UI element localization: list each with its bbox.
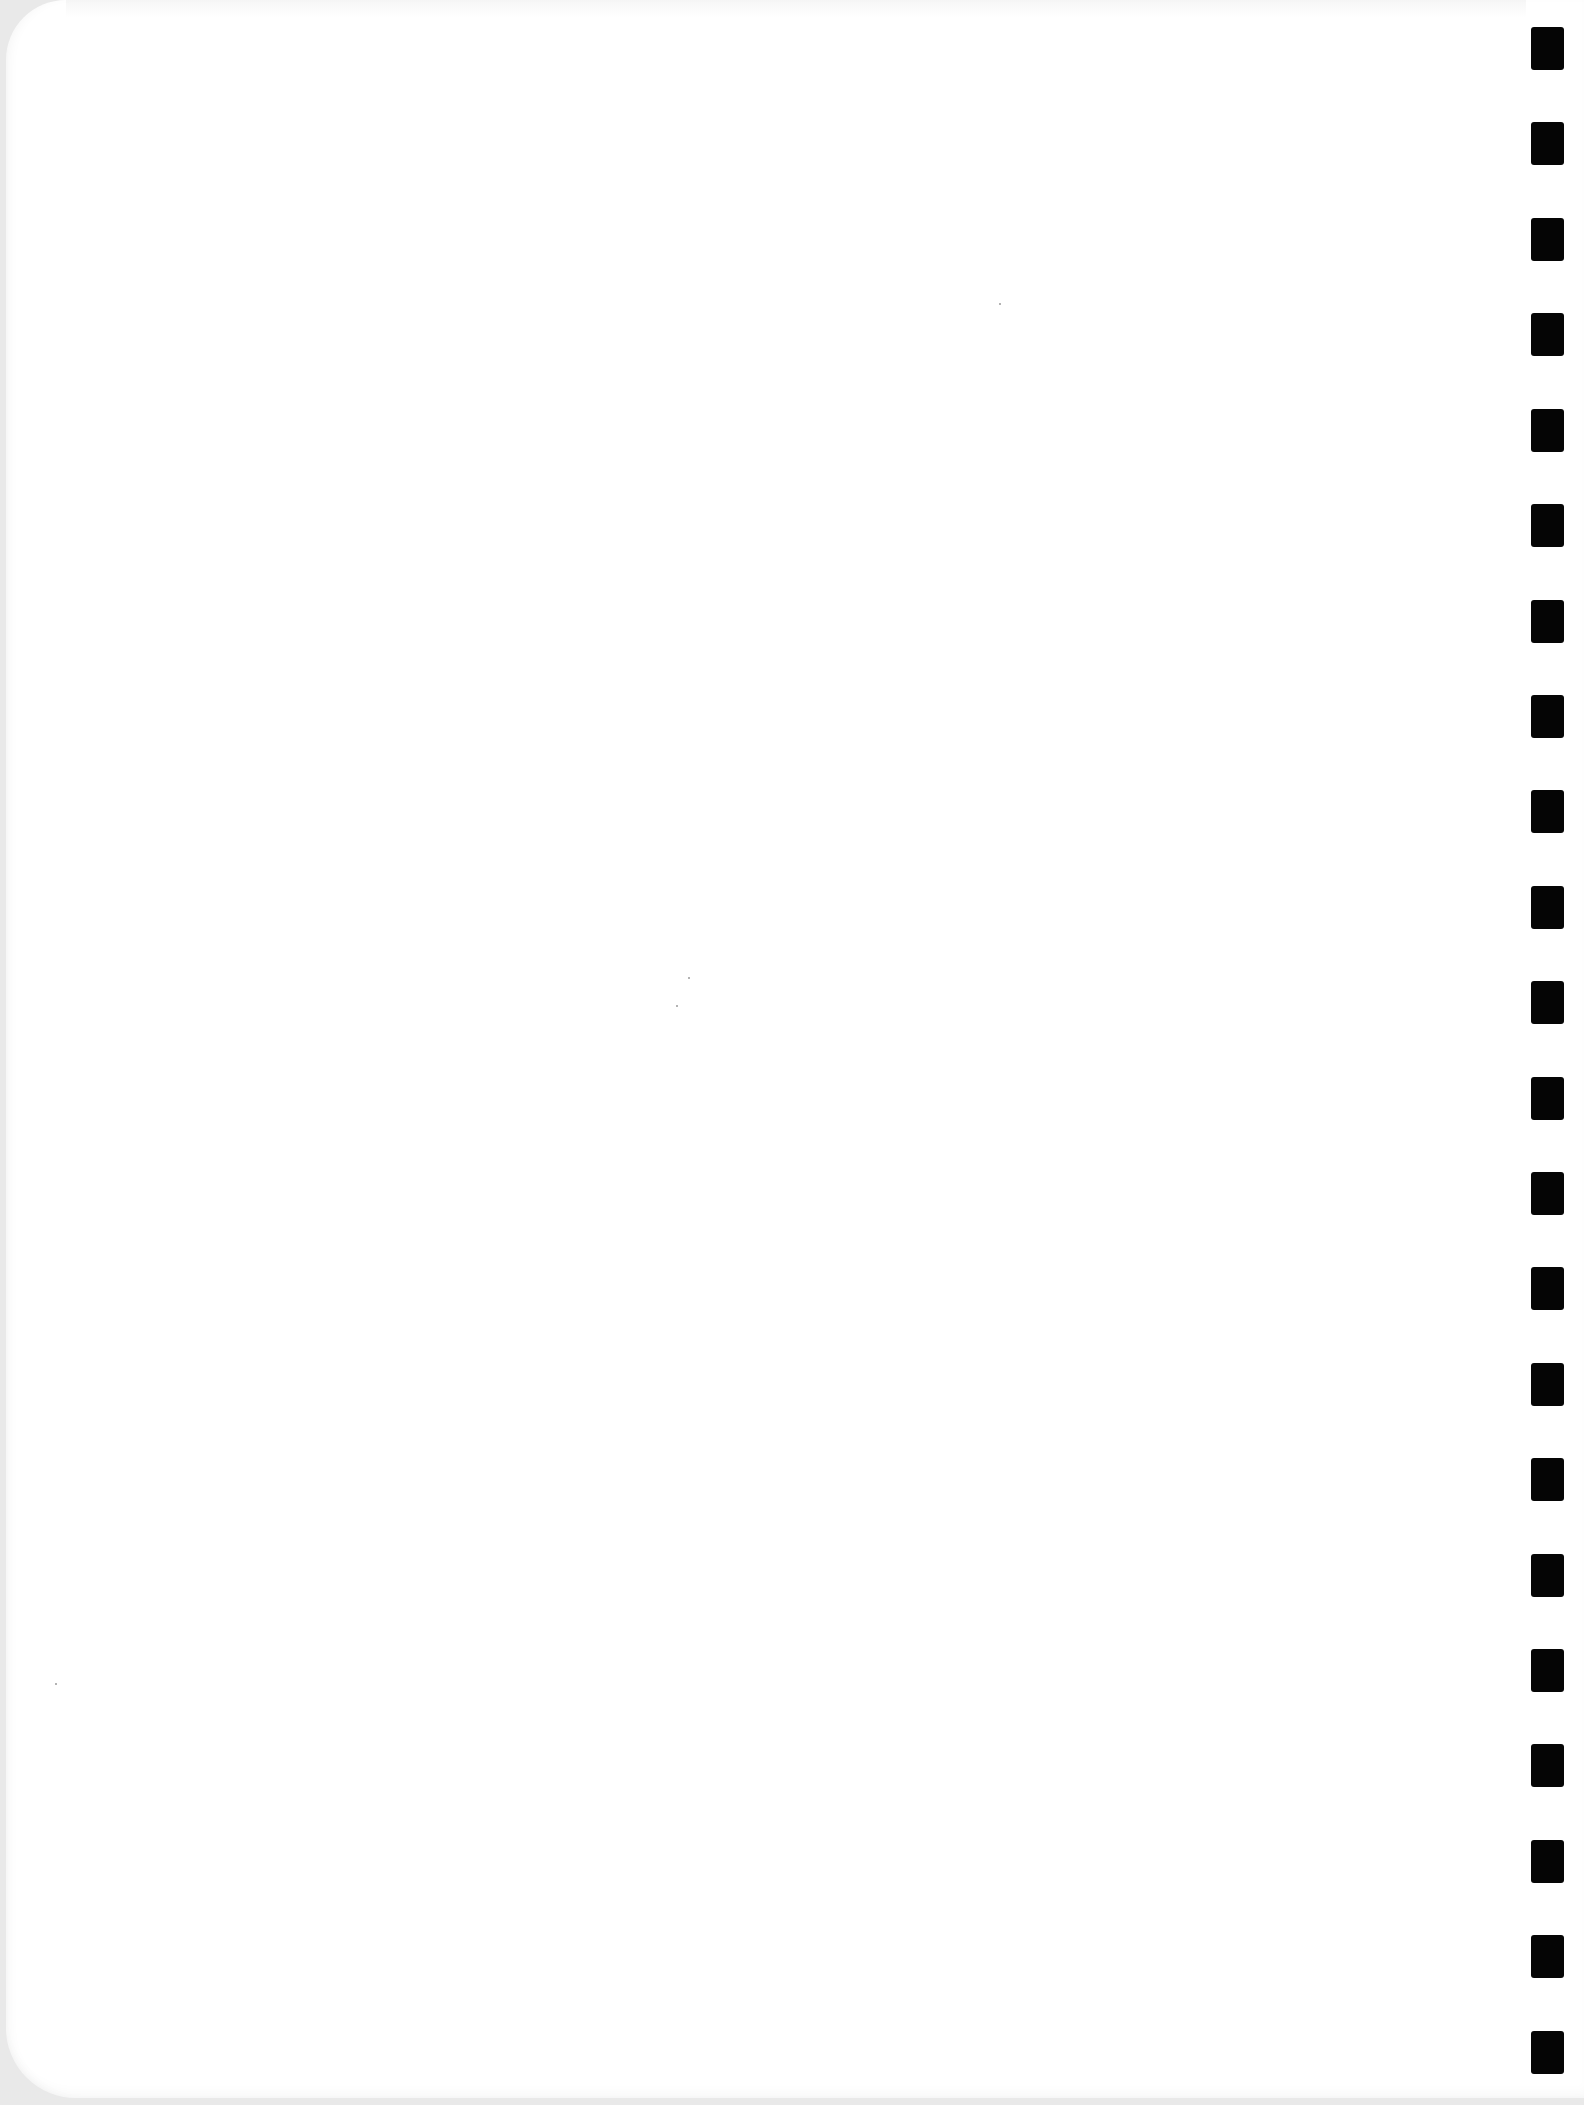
blank-page [6,0,1584,2098]
binding-hole [1531,1744,1564,1787]
binding-hole [1531,1267,1564,1310]
binding-hole [1531,790,1564,833]
binding-hole [1531,409,1564,452]
binding-hole [1531,218,1564,261]
binding-hole [1531,1077,1564,1120]
binding-hole [1531,1840,1564,1883]
bleed-through-shadow [66,0,1526,18]
binding-hole [1531,1649,1564,1692]
binding-hole [1531,886,1564,929]
binding-hole [1531,1554,1564,1597]
binding-hole [1531,1363,1564,1406]
binding-hole [1531,600,1564,643]
binding-hole [1531,695,1564,738]
binding-hole [1531,504,1564,547]
binding-hole [1531,1172,1564,1215]
binding-hole [1531,1458,1564,1501]
binding-hole [1531,122,1564,165]
binding-hole [1531,313,1564,356]
binding-hole [1531,1935,1564,1978]
dust-speck [688,977,690,979]
binding-hole [1531,981,1564,1024]
binding-hole [1531,2031,1564,2074]
binding-hole [1531,27,1564,70]
dust-speck [676,1005,678,1007]
scan-background [0,0,1584,2105]
dust-speck [55,1683,57,1685]
dust-speck [999,303,1001,305]
